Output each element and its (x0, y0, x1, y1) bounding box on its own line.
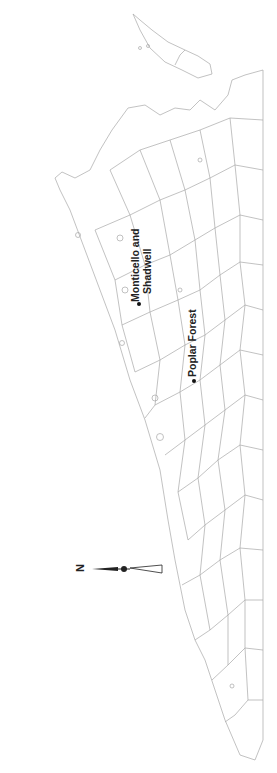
place-marker-poplar-forest[interactable] (192, 379, 196, 383)
north-arrow-label: N (74, 564, 86, 572)
place-label-monticello: Monticello and Shadwell (129, 229, 153, 303)
county-map (0, 0, 277, 773)
north-arrow-icon (92, 565, 162, 573)
state-outline (55, 70, 263, 760)
place-marker-monticello[interactable] (137, 302, 141, 306)
place-label-poplar-forest: Poplar Forest (186, 309, 198, 377)
eastern-shore (133, 14, 212, 78)
